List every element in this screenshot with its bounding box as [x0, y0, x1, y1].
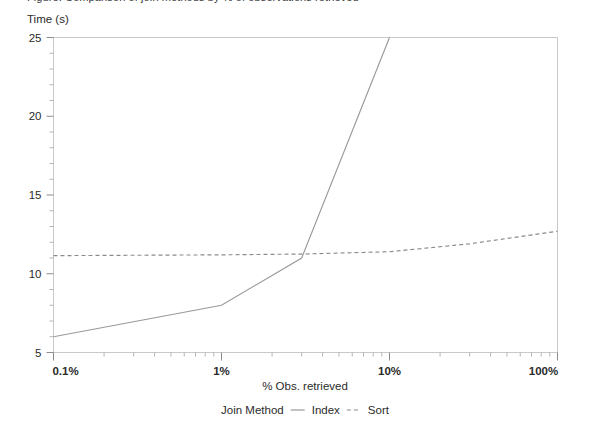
x-tick-label: 10% — [378, 365, 401, 377]
chart-legend: Join MethodIndexSort — [221, 404, 390, 416]
data-series-layer — [54, 38, 558, 337]
x-axis-title: % Obs. retrieved — [262, 380, 348, 392]
series-line-sort — [54, 231, 558, 255]
x-tick-label: 0.1% — [52, 365, 78, 377]
legend-title: Join Method — [221, 404, 284, 416]
y-axis-ticks — [47, 38, 54, 353]
x-tick-label: 1% — [213, 365, 230, 377]
x-axis-ticks — [54, 353, 558, 361]
legend-label-sort: Sort — [368, 404, 390, 416]
y-axis-tick-labels: 510152025 — [29, 32, 42, 359]
plot-canvas: 510152025 0.1%1%10%100% % Obs. retrieved… — [0, 0, 589, 435]
plot-frame — [54, 38, 558, 353]
y-tick-label: 20 — [29, 110, 42, 122]
chart-figure: Figure: Comparison of join methods by % … — [0, 0, 589, 435]
x-tick-label: 100% — [529, 365, 558, 377]
series-line-index — [54, 38, 390, 337]
y-tick-label: 5 — [35, 347, 41, 359]
legend-label-index: Index — [312, 404, 340, 416]
y-tick-label: 25 — [29, 32, 42, 44]
y-tick-label: 15 — [29, 189, 42, 201]
x-axis-tick-labels: 0.1%1%10%100% — [52, 365, 558, 377]
y-tick-label: 10 — [29, 268, 42, 280]
